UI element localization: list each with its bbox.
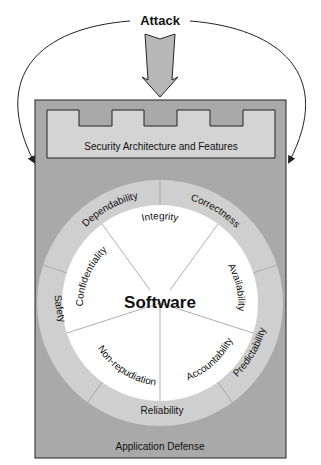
- attack-arrow-icon: [142, 34, 178, 97]
- application-defense-label: Application Defense: [116, 441, 205, 452]
- reliability-label: Reliability: [141, 405, 184, 416]
- integrity-label: Integrity: [140, 210, 179, 223]
- security-architecture-label: Security Architecture and Features: [84, 141, 237, 152]
- software-label: Software: [124, 293, 196, 312]
- attack-label: Attack: [140, 13, 181, 28]
- diagram-canvas: Attack Security Architecture and Feature…: [0, 0, 321, 465]
